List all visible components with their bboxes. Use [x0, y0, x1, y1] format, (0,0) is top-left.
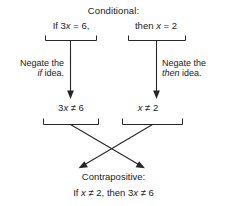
negation-left: 3x ≠ 6 — [43, 103, 99, 114]
contrapositive-title: Contrapositive: — [0, 172, 227, 183]
down-arrow-icon-left — [67, 48, 74, 99]
group-bracket-icon-top-left — [46, 36, 97, 49]
conditional-conclusion: then x = 2 — [127, 21, 185, 32]
negate-if-prefix: Negate the — [20, 58, 64, 68]
crossing-arrows-icon — [71, 125, 153, 169]
negate-if-label: Negate theif idea. — [2, 58, 64, 78]
negation-right: x ≠ 2 — [117, 103, 179, 114]
negate-then-target: then — [162, 68, 180, 78]
group-bracket-icon-bottom-left — [44, 119, 99, 125]
group-bracket-icon-bottom-right — [123, 119, 183, 125]
negate-then-prefix: Negate the — [162, 58, 206, 68]
contrapositive-statement: If x ≠ 2, then 3x ≠ 6 — [0, 188, 227, 199]
negate-then-suffix: idea. — [182, 68, 202, 78]
down-arrow-icon-right — [153, 48, 160, 99]
negate-if-suffix: idea. — [44, 68, 64, 78]
negate-then-label: Negate thethen idea. — [162, 58, 226, 78]
conditional-hypothesis: If 3x = 6, — [43, 21, 99, 32]
contrapositive-diagram: Conditional: If 3x = 6, then x = 2 Negat… — [0, 0, 227, 206]
negate-if-target: if — [37, 68, 42, 78]
conditional-title: Conditional: — [0, 6, 227, 17]
group-bracket-icon-top-right — [129, 36, 186, 49]
